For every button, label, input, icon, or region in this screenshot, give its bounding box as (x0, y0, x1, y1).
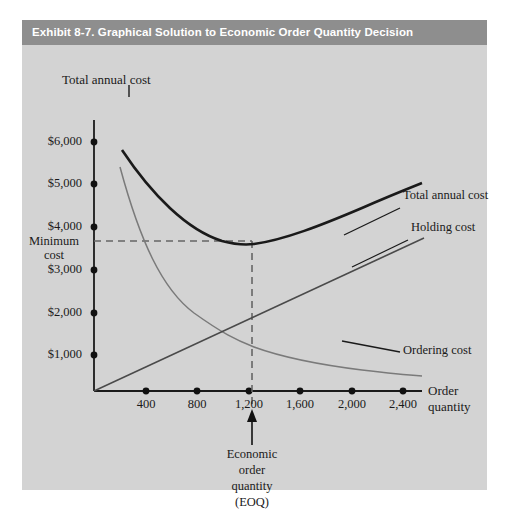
ordering-cost-curve (120, 167, 422, 376)
x-tick-label-800: 800 (172, 397, 222, 412)
eoq-annotation-line2: order (202, 463, 302, 478)
y-tick-label-5000: $5,000 (22, 176, 82, 191)
holding-cost-leader-line (352, 240, 408, 267)
eoq-annotation-line1: Economic (202, 447, 302, 462)
y-tick-dot-2000 (91, 310, 98, 317)
x-tick-label-1600: 1,600 (275, 397, 325, 412)
x-axis-title-line1: Order (428, 383, 458, 399)
y-tick-dot-6000 (91, 139, 98, 146)
total-annual-cost-curve (122, 150, 422, 245)
eoq-annotation-line4: (EOQ) (202, 495, 302, 510)
minimum-cost-label-line1: Minimum (22, 234, 86, 249)
x-tick-label-1200: 1,200 (224, 397, 274, 412)
x-tick-label-400: 400 (121, 397, 171, 412)
x-tick-dot-400 (143, 388, 150, 395)
curve-label-total-annual-cost: Total annual cost (403, 188, 488, 203)
chart-svg (22, 45, 487, 490)
x-tick-dot-2400 (400, 388, 407, 395)
exhibit-header-title: Exhibit 8-7. Graphical Solution to Econo… (22, 20, 487, 45)
minimum-cost-label-line2: cost (22, 248, 86, 263)
x-tick-label-2000: 2,000 (327, 397, 377, 412)
y-tick-dot-5000 (91, 181, 98, 188)
ordering-cost-leader-line (342, 341, 400, 352)
y-tick-label-1000: $1,000 (22, 347, 82, 362)
y-tick-dot-1000 (91, 352, 98, 359)
x-tick-dot-2000 (349, 388, 356, 395)
y-tick-dot-3000 (91, 267, 98, 274)
y-tick-label-4000: $4,000 (22, 219, 82, 234)
y-tick-dot-4000 (91, 224, 98, 231)
y-tick-label-3000: $3,000 (22, 262, 82, 277)
y-axis-title: Total annual cost (62, 72, 151, 88)
x-tick-dot-1600 (297, 388, 304, 395)
y-tick-label-6000: $6,000 (22, 134, 82, 149)
x-tick-label-2400: 2,400 (378, 397, 428, 412)
curve-label-holding-cost: Holding cost (411, 220, 475, 235)
x-tick-dot-800 (194, 388, 201, 395)
holding-cost-line (94, 238, 424, 391)
exhibit-container: Exhibit 8-7. Graphical Solution to Econo… (22, 20, 487, 490)
chart-plot-area: Total annual cost $6,000 $5,000 $4,000 $… (22, 45, 487, 490)
x-axis-title-line2: quantity (428, 399, 471, 415)
eoq-annotation-line3: quantity (202, 479, 302, 494)
curve-label-ordering-cost: Ordering cost (403, 343, 471, 358)
y-tick-label-2000: $2,000 (22, 305, 82, 320)
